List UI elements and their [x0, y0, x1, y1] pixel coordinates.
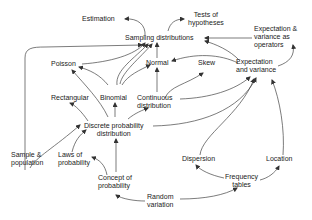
node-location: Location	[266, 155, 292, 163]
edge-random-frequency	[180, 188, 237, 199]
node-poisson: Poisson	[51, 60, 76, 68]
node-frequency-tables: Frequency tables	[225, 173, 258, 189]
node-dispersion: Dispersion	[182, 155, 215, 163]
edge-location-expvar	[272, 80, 283, 155]
edge-discrete-rectangular	[70, 103, 88, 121]
node-sampling-distributions: Sampling distributions	[125, 34, 193, 42]
node-expectation-and-variance: Expectation and variance	[236, 58, 276, 74]
edge-binomial-normal	[122, 65, 150, 85]
node-laws-of-probability: Laws of probability	[58, 151, 90, 167]
concept-map: Estimation Tests of hypotheses Sampling …	[0, 0, 312, 220]
node-discrete-probability-distribution: Discrete probability distribution	[84, 122, 144, 138]
node-continuous-distribution: Continuous distribution	[137, 94, 172, 110]
node-concept-of-probability: Concept of probability	[98, 174, 132, 190]
node-sample-population: Sample & population	[11, 151, 43, 167]
node-binomial: Binomial	[100, 94, 127, 102]
edge-sampling-tests	[168, 19, 184, 31]
edge-frequency-location	[260, 166, 279, 180]
node-rectangular: Rectangular	[51, 94, 89, 102]
edge-frequency-dispersion	[196, 165, 224, 178]
edge-concept-laws	[92, 157, 107, 175]
node-expectation-variance-operators: Expectation & variance as operators	[254, 25, 297, 49]
edge-random-concept	[116, 195, 145, 201]
node-random-variation: Random variation	[147, 193, 173, 209]
edge-binomial-poisson	[79, 67, 108, 85]
edge-expvar-sampling	[205, 41, 240, 61]
node-tests-of-hypotheses: Tests of hypotheses	[188, 11, 224, 27]
node-normal: Normal	[146, 59, 169, 67]
node-skew: Skew	[198, 59, 215, 67]
node-estimation: Estimation	[82, 15, 115, 23]
